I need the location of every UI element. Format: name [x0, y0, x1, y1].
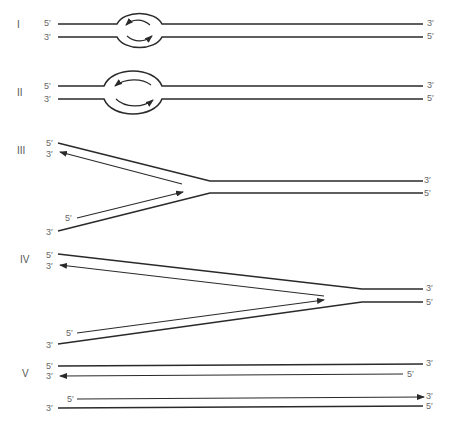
strand-end-label: 3′	[427, 19, 434, 28]
panel-4-fork	[58, 254, 423, 344]
strand-end-label: 5′	[46, 251, 53, 260]
strand-end-label: 5′	[46, 139, 53, 148]
panel-2-duplex	[58, 71, 423, 114]
strand-end-label: 5′	[67, 395, 74, 404]
panel-3-fork	[58, 143, 423, 231]
strand-end-label: 3′	[46, 404, 53, 413]
strand-end-label: 5′	[407, 370, 414, 379]
strand-end-label: 3′	[46, 228, 53, 237]
strand-end-label: 5′	[427, 32, 434, 41]
strand-end-label: 5′	[426, 402, 433, 411]
panel-numeral: V	[22, 369, 29, 379]
strand-end-label: 5′	[427, 94, 434, 103]
strand-end-label: 3′	[44, 95, 51, 104]
strand-end-label: 3′	[46, 150, 53, 159]
strand-end-label: 5′	[66, 329, 73, 338]
strand-end-label: 3′	[46, 341, 53, 350]
panel-5-daughters	[58, 364, 424, 408]
strand-end-label: 5′	[65, 214, 72, 223]
panel-numeral: I	[17, 20, 20, 30]
strand-end-label: 3′	[46, 372, 53, 381]
panel-numeral: III	[17, 146, 25, 156]
strand-end-label: 3′	[424, 176, 431, 185]
strand-end-label: 5′	[426, 298, 433, 307]
strand-end-label: 5′	[424, 189, 431, 198]
strand-end-label: 5′	[44, 19, 51, 28]
panel-1-duplex	[58, 14, 423, 48]
strand-end-label: 3′	[427, 81, 434, 90]
strand-end-label: 3′	[44, 33, 51, 42]
strand-end-label: 5′	[44, 82, 51, 91]
strand-end-label: 3′	[426, 392, 433, 401]
panel-numeral: IV	[20, 255, 29, 265]
panel-numeral: II	[17, 88, 23, 98]
strand-end-label: 5′	[46, 362, 53, 371]
strand-end-label: 3′	[46, 262, 53, 271]
strand-end-label: 3′	[426, 284, 433, 293]
strand-end-label: 3′	[426, 359, 433, 368]
